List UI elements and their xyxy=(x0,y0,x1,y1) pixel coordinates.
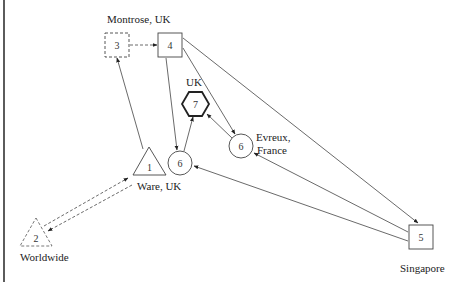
node-2-number: 2 xyxy=(34,233,39,244)
node-3: 3 xyxy=(105,33,129,57)
edge-4-to-6b xyxy=(183,48,235,134)
node-6-evreux: 6 xyxy=(229,134,253,158)
edge-6b-to-7 xyxy=(207,114,232,138)
edge-1-to-2 xyxy=(48,185,132,231)
node-5: 5 xyxy=(409,225,433,249)
node-7-number: 7 xyxy=(193,99,198,110)
edge-1-to-3 xyxy=(117,58,143,149)
node-3-number: 3 xyxy=(115,40,120,51)
node-4-number: 4 xyxy=(168,40,173,51)
edge-2-to-1 xyxy=(44,178,128,226)
label-worldwide: Worldwide xyxy=(20,251,69,263)
supply-network-diagram: 3 4 7 6 1 6 2 5 xyxy=(0,0,459,282)
edge-4-to-6a xyxy=(166,58,177,150)
label-evreux: Evreux, xyxy=(256,131,291,143)
node-1-number: 1 xyxy=(147,162,152,173)
node-5-number: 5 xyxy=(419,232,424,243)
edge-4-to-5 xyxy=(183,38,418,223)
label-uk: UK xyxy=(186,76,202,88)
edge-6a-to-7 xyxy=(184,117,193,151)
node-6a-number: 6 xyxy=(178,158,183,169)
label-france: France xyxy=(257,144,287,156)
label-singapore: Singapore xyxy=(400,262,445,274)
node-6b-number: 6 xyxy=(239,141,244,152)
edge-5-to-6b xyxy=(254,153,408,232)
node-7: 7 xyxy=(182,92,209,116)
node-4: 4 xyxy=(158,33,182,57)
label-ware: Ware, UK xyxy=(137,180,181,192)
node-2: 2 xyxy=(20,218,52,246)
node-1: 1 xyxy=(133,147,166,175)
node-6-ware: 6 xyxy=(168,151,192,175)
label-montrose: Montrose, UK xyxy=(107,13,171,25)
